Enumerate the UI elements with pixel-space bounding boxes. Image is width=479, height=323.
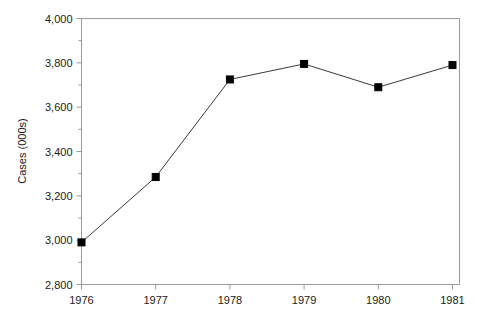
data-point-marker	[78, 239, 85, 246]
data-point-marker	[152, 173, 159, 180]
y-tick-label: 3,800	[45, 57, 73, 69]
chart-canvas: 2,8003,0003,2003,4003,6003,8004,000 1976…	[0, 0, 479, 323]
y-tick-label: 3,200	[45, 190, 73, 202]
chart-background	[0, 0, 479, 323]
y-tick-label: 4,000	[45, 13, 73, 25]
x-tick-label: 1978	[218, 294, 242, 306]
data-point-marker	[226, 76, 233, 83]
y-axis-title: Cases (000s)	[16, 118, 28, 183]
data-point-marker	[301, 60, 308, 67]
y-tick-label: 2,800	[45, 279, 73, 291]
y-tick-label: 3,000	[45, 234, 73, 246]
x-tick-label: 1979	[292, 294, 316, 306]
x-tick-label: 1981	[440, 294, 464, 306]
data-point-marker	[375, 84, 382, 91]
y-tick-label: 3,400	[45, 146, 73, 158]
x-tick-label: 1977	[143, 294, 167, 306]
y-tick-label: 3,600	[45, 101, 73, 113]
data-point-marker	[449, 62, 456, 69]
x-tick-label: 1980	[366, 294, 390, 306]
line-chart: 2,8003,0003,2003,4003,6003,8004,000 1976…	[0, 0, 479, 323]
x-tick-label: 1976	[69, 294, 93, 306]
